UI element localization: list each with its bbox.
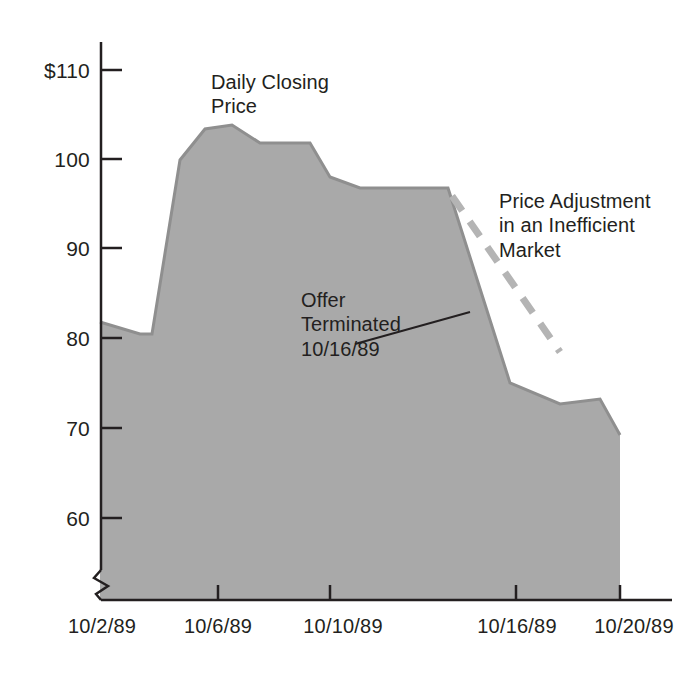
x-tick-label-1006: 10/6/89 [156,616,280,636]
y-tick-label-60: 60 [18,508,90,529]
y-tick-label-110: $110 [18,60,90,81]
y-tick-label-100: 100 [18,149,90,170]
y-tick-label-70: 70 [18,418,90,439]
y-tick-label-80: 80 [18,328,90,349]
x-tick-label-1010: 10/10/89 [276,616,410,636]
x-tick-label-1020: 10/20/89 [572,616,696,636]
y-tick-label-90: 90 [18,238,90,259]
annotation-daily-closing-price: Daily Closing Price [211,70,391,119]
annotation-price-adjustment: Price Adjustment in an Inefficient Marke… [499,189,699,262]
x-tick-label-1016: 10/16/89 [450,616,584,636]
annotation-offer-terminated: Offer Terminated 10/16/89 [301,288,471,361]
chart-container: $110 100 90 80 70 60 10/2/89 10/6/89 10/… [0,0,700,682]
x-tick-label-1002: 10/2/89 [40,616,164,636]
